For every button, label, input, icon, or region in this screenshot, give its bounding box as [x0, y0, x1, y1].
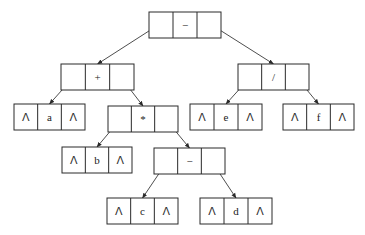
node-value-label: − [182, 19, 188, 31]
tree-node-d: dΛΛ [200, 198, 272, 224]
null-pointer-icon: Λ [115, 205, 123, 218]
tree-node-b: bΛΛ [62, 147, 132, 173]
node-value-label: f [317, 111, 321, 123]
null-pointer-icon: Λ [69, 111, 77, 124]
node-value-label: − [186, 155, 192, 167]
node-value-label: b [94, 154, 100, 166]
node-value-label: * [140, 113, 146, 125]
tree-nodes: −+/aΛΛ*eΛΛfΛΛbΛΛ−cΛΛdΛΛ [14, 12, 354, 224]
null-pointer-icon: Λ [246, 111, 254, 124]
node-value-label: a [47, 111, 52, 123]
node-value-label: c [140, 205, 145, 217]
null-pointer-icon: Λ [22, 111, 30, 124]
tree-node-f: fΛΛ [283, 104, 354, 130]
null-pointer-icon: Λ [162, 205, 170, 218]
tree-node-a: aΛΛ [14, 104, 85, 130]
tree-node-mul: * [108, 106, 178, 132]
null-pointer-icon: Λ [208, 205, 216, 218]
null-pointer-icon: Λ [117, 154, 125, 167]
expression-tree-diagram: −+/aΛΛ*eΛΛfΛΛbΛΛ−cΛΛdΛΛ [0, 0, 365, 235]
null-pointer-icon: Λ [291, 111, 299, 124]
null-pointer-icon: Λ [198, 111, 206, 124]
null-pointer-icon: Λ [338, 111, 346, 124]
node-value-label: + [94, 71, 100, 83]
node-value-label: e [224, 111, 229, 123]
null-pointer-icon: Λ [256, 205, 264, 218]
tree-node-plus: + [61, 64, 134, 90]
tree-node-minus2: − [154, 148, 225, 174]
node-value-label: d [233, 205, 239, 217]
tree-node-div: / [238, 64, 309, 90]
tree-node-root: − [149, 12, 221, 38]
tree-node-e: eΛΛ [190, 104, 262, 130]
null-pointer-icon: Λ [70, 154, 78, 167]
tree-node-c: cΛΛ [107, 198, 178, 224]
